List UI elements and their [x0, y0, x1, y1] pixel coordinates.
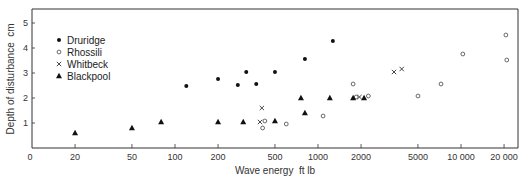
filled-circle-marker — [216, 77, 220, 81]
filled-circle-marker — [244, 70, 248, 74]
x-tick-label: 50 — [127, 152, 137, 162]
y-tick-label: 4 — [23, 43, 28, 53]
open-circle-marker — [505, 58, 509, 62]
open-circle-marker — [263, 119, 267, 123]
cross-marker — [392, 70, 396, 74]
open-circle-marker — [416, 94, 420, 98]
open-circle-marker — [504, 33, 508, 37]
legend-label: Druridge — [67, 35, 106, 46]
series-rhossili — [261, 33, 509, 130]
x-tick-label: 20 — [70, 152, 80, 162]
legend-item-blackpool: Blackpool — [56, 71, 110, 82]
x-tick-label: 20 000 — [490, 152, 518, 162]
open-circle-marker — [351, 82, 355, 86]
filled-circle-marker — [236, 83, 240, 87]
legend-item-whitbeck: Whitbeck — [57, 59, 109, 70]
y-tick-label: 5 — [23, 18, 28, 28]
filled-triangle-marker — [215, 119, 221, 124]
filled-triangle-marker — [129, 125, 135, 130]
legend-label: Rhossili — [67, 47, 102, 58]
cross-marker — [260, 106, 264, 110]
filled-triangle-marker — [298, 95, 304, 100]
filled-circle-marker — [254, 82, 258, 86]
open-circle-marker — [461, 52, 465, 56]
y-axis-title: Depth of disturbance cm — [5, 23, 16, 134]
y-tick-label: 1 — [23, 118, 28, 128]
filled-triangle-marker — [158, 119, 164, 124]
filled-circle-marker — [331, 39, 335, 43]
x-tick-label: 10 000 — [447, 152, 475, 162]
chart-canvas: 205010020050010002000500010 00020 000 12… — [0, 0, 529, 180]
x-origin-label: 0 — [27, 152, 32, 162]
legend-item-druridge: Druridge — [57, 35, 106, 46]
open-circle-marker — [366, 94, 370, 98]
x-axis-ticks: 205010020050010002000500010 00020 000 — [70, 144, 518, 162]
filled-triangle-marker — [302, 110, 308, 115]
x-tick-label: 200 — [211, 152, 226, 162]
y-axis-ticks: 12345 — [23, 18, 35, 128]
cross-marker — [400, 67, 404, 71]
open-circle-marker — [284, 122, 288, 126]
cross-marker — [258, 120, 262, 124]
x-tick-label: 500 — [267, 152, 282, 162]
filled-triangle-legend-icon — [56, 73, 62, 78]
y-tick-label: 2 — [23, 93, 28, 103]
filled-circle-legend-icon — [57, 38, 61, 42]
filled-circle-marker — [273, 70, 277, 74]
filled-triangle-marker — [272, 118, 278, 123]
x-axis-title: Wave energy ft lb — [235, 165, 316, 176]
cross-legend-icon — [57, 62, 61, 66]
filled-circle-marker — [303, 57, 307, 61]
filled-triangle-marker — [240, 119, 246, 124]
filled-triangle-marker — [327, 95, 333, 100]
x-tick-label: 2000 — [351, 152, 371, 162]
filled-circle-marker — [184, 84, 188, 88]
open-circle-marker — [261, 126, 265, 130]
open-circle-marker — [439, 82, 443, 86]
scatter-chart: 205010020050010002000500010 00020 000 12… — [0, 0, 529, 180]
x-tick-label: 1000 — [308, 152, 328, 162]
data-points — [72, 33, 509, 135]
series-whitbeck — [258, 67, 404, 124]
filled-triangle-marker — [72, 130, 78, 135]
legend-label: Whitbeck — [67, 59, 109, 70]
legend-item-rhossili: Rhossili — [57, 47, 102, 58]
x-tick-label: 100 — [167, 152, 182, 162]
legend-label: Blackpool — [67, 71, 110, 82]
y-tick-label: 3 — [23, 68, 28, 78]
legend: DruridgeRhossiliWhitbeckBlackpool — [56, 35, 110, 82]
series-druridge — [184, 39, 335, 88]
x-tick-label: 5000 — [408, 152, 428, 162]
open-circle-legend-icon — [57, 50, 61, 54]
open-circle-marker — [321, 114, 325, 118]
